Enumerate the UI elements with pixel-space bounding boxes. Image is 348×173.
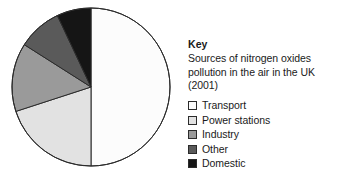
legend-heading: Key — [188, 38, 344, 51]
pie-chart — [11, 7, 171, 167]
legend-item: Other — [188, 142, 344, 156]
legend-swatch-icon — [188, 101, 197, 110]
legend-item: Domestic — [188, 157, 344, 171]
legend-item-label: Domestic — [202, 157, 245, 170]
legend-caption: Sources of nitrogen oxides pollution in … — [188, 52, 342, 93]
legend-swatch-icon — [188, 145, 197, 154]
legend-item-label: Transport — [202, 99, 246, 112]
legend-item: Industry — [188, 128, 344, 142]
legend-item-label: Industry — [202, 128, 239, 141]
legend-item: Transport — [188, 99, 344, 113]
legend-swatch-icon — [188, 159, 197, 168]
legend-item-label: Other — [202, 143, 228, 156]
pie-slice — [91, 8, 170, 166]
pie-slice-group — [12, 8, 170, 166]
legend-item-list: TransportPower stationsIndustryOtherDome… — [188, 99, 344, 171]
legend: Key Sources of nitrogen oxides pollution… — [188, 38, 344, 171]
pie-chart-figure: Key Sources of nitrogen oxides pollution… — [0, 0, 348, 173]
legend-item: Power stations — [188, 113, 344, 127]
legend-swatch-icon — [188, 130, 197, 139]
pie-chart-svg — [11, 7, 171, 167]
legend-swatch-icon — [188, 116, 197, 125]
legend-item-label: Power stations — [202, 114, 270, 127]
